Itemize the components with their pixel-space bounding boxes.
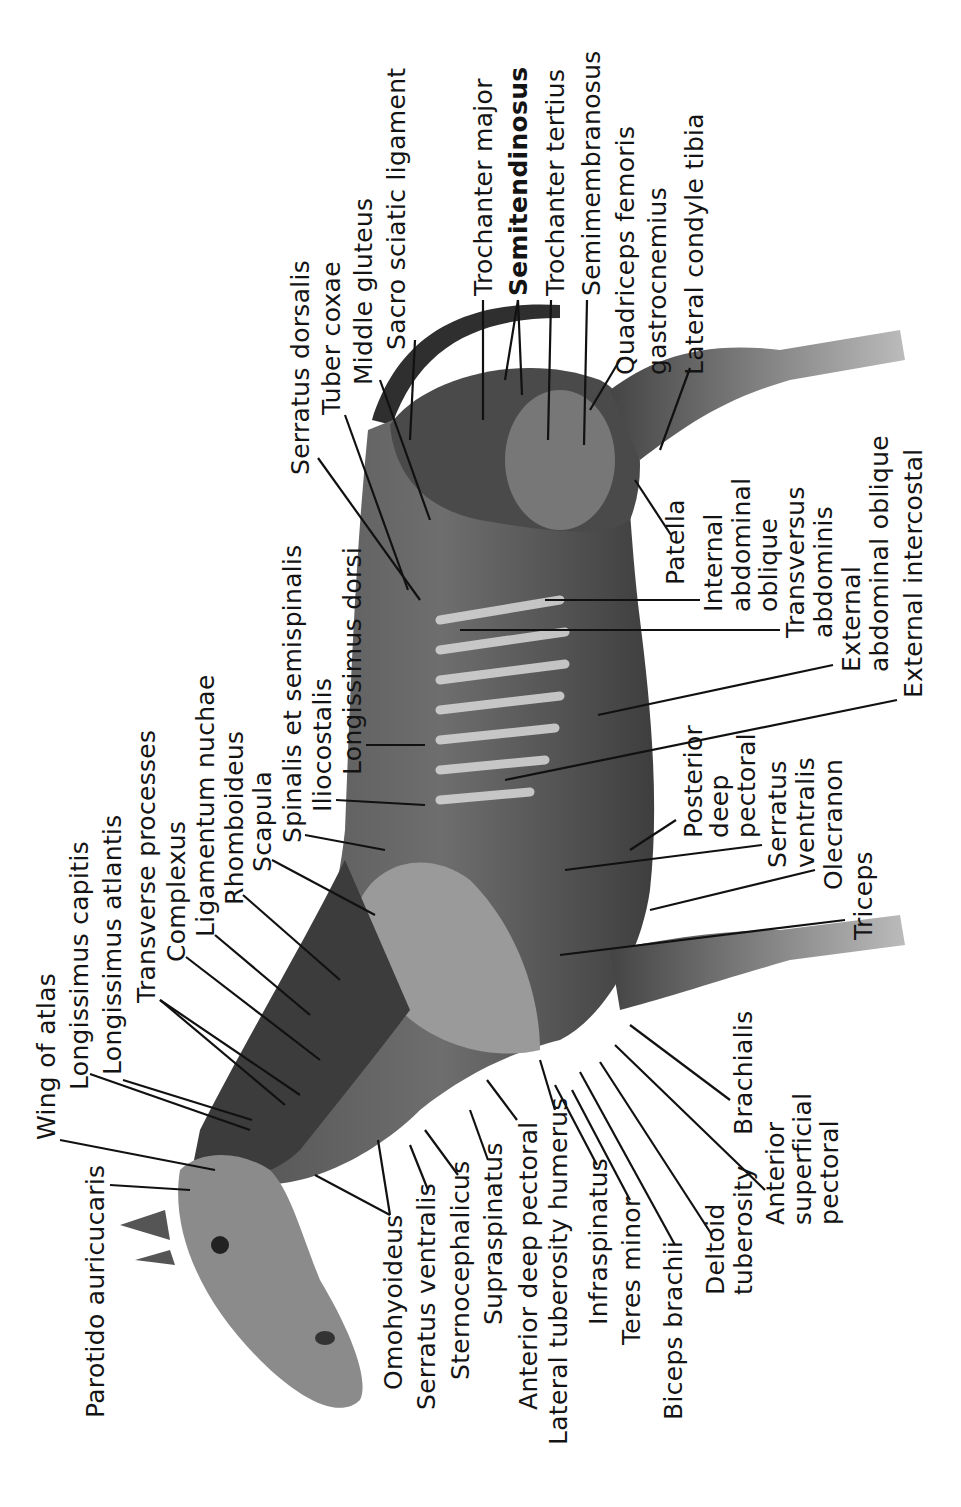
label-scapula: Scapula [249, 771, 277, 872]
label-supraspinatus: Supraspinatus [480, 1142, 508, 1325]
label-lateral-tuberosity-humerus: Lateral tuberosity humerus [545, 1097, 573, 1445]
label-anterior-superficial-pectoral-line2: superficial [789, 1093, 817, 1225]
label-sternocephalicus: Sternocephalicus [447, 1161, 475, 1381]
label-biceps-brachii: Biceps brachii [660, 1241, 688, 1420]
label-ligamentum-nuchae: Ligamentum nuchae [192, 674, 220, 937]
label-middle-gluteus: Middle gluteus [350, 198, 378, 385]
label-lateral-condyle-tibia: Lateral condyle tibia [681, 113, 709, 375]
label-deltoid-line2: tuberosity [730, 1166, 758, 1296]
label-posterior-pectoral-line3: pectoral [733, 733, 761, 838]
label-longissimus-dorsi: Longissimus dorsi [339, 547, 367, 775]
label-gastrocnemius: gastrocnemius [644, 187, 672, 375]
label-external-oblique-line2: abdominal oblique [866, 435, 894, 672]
label-patella: Patella [662, 499, 690, 585]
label-complexus: Complexus [163, 821, 191, 962]
ear-shape-2 [135, 1250, 175, 1265]
label-internal-oblique-line3: oblique [755, 518, 783, 612]
label-teres-minor: Teres minor [618, 1196, 646, 1345]
label-anterior-deep-pectoral: Anterior deep pectoral [515, 1121, 543, 1410]
label-serratus-ventralis-right-line1: Serratus [764, 760, 792, 868]
label-transversus-line2: abdominis [810, 506, 838, 638]
eye [211, 1236, 229, 1254]
head-shape [178, 1155, 362, 1408]
ear-shape [120, 1210, 170, 1240]
label-trochanter-major: Trochanter major [470, 78, 498, 296]
label-parotido-auricucaris: Parotido auricucaris [82, 1165, 110, 1418]
label-wing-of-atlas: Wing of atlas [33, 973, 61, 1140]
label-deltoid-line1: Deltoid [702, 1203, 730, 1295]
label-brachialis: Brachialis [730, 1010, 758, 1135]
label-quadriceps-femoris: Quadriceps femoris [612, 126, 640, 375]
label-longissimus-atlantis: Longissimus atlantis [99, 814, 127, 1075]
label-transversus-line1: Transversus [782, 486, 810, 638]
thigh-highlight [505, 390, 615, 530]
label-serratus-ventralis-left: Serratus ventralis [413, 1183, 441, 1410]
label-posterior-pectoral-line1: Posterior [680, 725, 708, 838]
nostril [315, 1331, 335, 1345]
label-trochanter-tertius: Trochanter tertius [542, 69, 570, 296]
label-transverse-processes: Transverse processes [133, 730, 161, 1003]
label-anterior-superficial-pectoral-line3: pectoral [816, 1120, 844, 1225]
label-anterior-superficial-pectoral-line1: Anterior [762, 1122, 790, 1225]
label-posterior-pectoral-line2: deep [706, 774, 734, 838]
label-olecranon: Olecranon [820, 759, 848, 890]
label-infraspinatus: Infraspinatus [585, 1158, 613, 1325]
anatomy-figure: Wing of atlas Longissimus capitis Longis… [0, 0, 961, 1507]
label-rhomboideus: Rhomboideus [221, 731, 249, 905]
label-spinalis-et-semispinalis: Spinalis et semispinalis [279, 544, 307, 843]
label-sacro-sciatic-ligament: Sacro sciatic ligament [383, 68, 411, 350]
label-semitendinosus: Semitendinosus [505, 67, 533, 296]
label-serratus-dorsalis: Serratus dorsalis [287, 260, 315, 475]
label-serratus-ventralis-right-line2: ventralis [792, 757, 820, 868]
label-external-oblique-line1: External [838, 566, 866, 672]
label-triceps: Triceps [850, 851, 878, 940]
label-internal-oblique-line2: abdominal [728, 478, 756, 612]
label-external-intercostal: External intercostal [900, 448, 928, 698]
label-tuber-coxae: Tuber coxae [318, 261, 346, 415]
label-internal-oblique-line1: Internal [700, 513, 728, 612]
label-semimembranosus: Semimembranosus [578, 50, 606, 296]
label-iliocostalis: Iliocostalis [309, 678, 337, 812]
label-omohyoideus: Omohyoideus [380, 1214, 408, 1390]
label-longissimus-capitis: Longissimus capitis [66, 841, 94, 1090]
